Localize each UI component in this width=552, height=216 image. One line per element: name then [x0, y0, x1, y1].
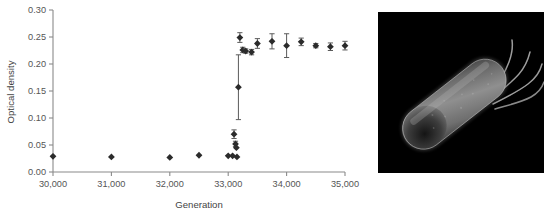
y-tick-label: 0.20 [28, 59, 46, 69]
data-point [327, 43, 334, 51]
data-point [236, 33, 243, 43]
y-tick-label: 0.10 [28, 113, 46, 123]
data-point [269, 34, 276, 49]
x-axis-title: Generation [175, 199, 222, 210]
micrograph-image [378, 12, 544, 173]
data-point [342, 41, 349, 50]
y-tick-label: 0.15 [28, 86, 46, 96]
x-tick-label: 30,000 [39, 179, 67, 189]
x-tick-label: 33,000 [214, 179, 242, 189]
x-tick-label: 35,000 [331, 179, 359, 189]
data-point [231, 130, 238, 139]
x-tick-label: 31,000 [97, 179, 125, 189]
data-point [242, 48, 249, 55]
data-point [248, 49, 255, 56]
x-axis: 30,00031,00032,00033,00034,00035,000 [39, 172, 359, 189]
data-point [50, 153, 57, 160]
y-tick-label: 0.30 [28, 5, 46, 15]
data-point [254, 39, 261, 49]
y-tick-label: 0.25 [28, 32, 46, 42]
x-tick-label: 34,000 [273, 179, 301, 189]
y-tick-label: 0.00 [28, 167, 46, 177]
data-point [283, 34, 290, 58]
optical-density-chart-panel: 0.000.050.100.150.200.250.30 30,00031,00… [0, 0, 370, 216]
data-point [312, 42, 319, 49]
figure-container: 0.000.050.100.150.200.250.30 30,00031,00… [0, 0, 552, 216]
y-axis-title: Optical density [5, 60, 16, 123]
y-tick-label: 0.05 [28, 140, 46, 150]
y-axis: 0.000.050.100.150.200.250.30 [28, 5, 53, 177]
data-series [50, 33, 349, 161]
bacterium-micrograph [378, 12, 544, 173]
data-point [166, 154, 173, 161]
data-point [298, 38, 305, 46]
data-point [196, 152, 203, 159]
scatter-plot: 0.000.050.100.150.200.250.30 30,00031,00… [0, 0, 370, 216]
x-tick-label: 32,000 [156, 179, 184, 189]
data-point [108, 153, 115, 160]
data-point [235, 55, 242, 120]
